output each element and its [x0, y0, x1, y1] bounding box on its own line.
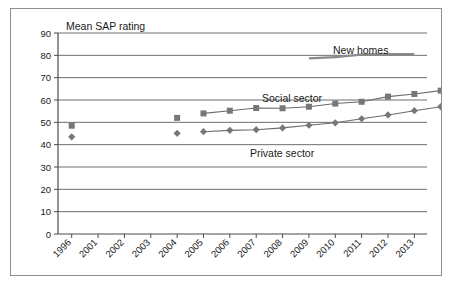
data-point-diamond — [226, 127, 233, 134]
data-point-diamond — [411, 107, 418, 114]
data-point-diamond — [279, 124, 286, 131]
chart-title: Mean SAP rating — [66, 20, 145, 32]
data-point-square — [253, 105, 259, 111]
y-tick-label: 40 — [40, 139, 51, 150]
data-point-square — [280, 105, 286, 111]
data-point-diamond — [384, 111, 391, 118]
data-point-square — [411, 91, 417, 97]
data-point-diamond — [174, 130, 181, 137]
y-tick-label: 0 — [46, 229, 51, 240]
x-tick-label: 2006 — [209, 237, 232, 260]
sap-rating-line-chart: 0102030405060708090 19962001200220032004… — [11, 9, 441, 275]
y-tick-label: 80 — [40, 50, 51, 61]
y-tick-label: 10 — [40, 206, 51, 217]
x-tick-label: 2005 — [182, 237, 205, 260]
x-tick-label: 2004 — [156, 237, 179, 260]
data-point-square — [227, 108, 233, 114]
data-point-diamond — [358, 115, 365, 122]
x-tick-label: 2009 — [288, 237, 311, 260]
data-point-square — [69, 123, 75, 129]
y-tick-label: 60 — [40, 95, 51, 106]
x-tick-label: 2008 — [261, 237, 284, 260]
data-point-diamond — [200, 128, 207, 135]
data-point-diamond — [68, 133, 75, 140]
x-axis-ticks: 1996200120022003200420052006200720082009… — [50, 234, 415, 259]
x-tick-label: 2010 — [314, 237, 337, 260]
annotation-private-sector: Private sector — [250, 147, 315, 159]
x-tick-label: 2002 — [103, 237, 126, 260]
y-tick-label: 70 — [40, 72, 51, 83]
data-point-square — [359, 99, 365, 105]
annotation-new-homes: New homes — [333, 44, 388, 56]
y-tick-label: 50 — [40, 117, 51, 128]
y-tick-label: 20 — [40, 184, 51, 195]
gridlines — [58, 33, 427, 212]
series-line — [203, 107, 440, 132]
y-tick-label: 90 — [40, 28, 51, 39]
data-point-diamond — [253, 126, 260, 133]
x-tick-label: 2001 — [77, 237, 100, 260]
data-point-square — [174, 115, 180, 121]
x-tick-label: 2013 — [393, 237, 416, 260]
data-point-square — [200, 110, 206, 116]
data-point-diamond — [332, 119, 339, 126]
data-point-square — [306, 104, 312, 110]
data-point-square — [438, 88, 441, 94]
x-tick-label: 2007 — [235, 237, 258, 260]
chart-container: 0102030405060708090 19962001200220032004… — [10, 8, 442, 276]
x-tick-label: 1996 — [50, 237, 73, 260]
x-tick-label: 2011 — [341, 237, 363, 259]
annotation-social-sector: Social sector — [262, 92, 323, 104]
x-tick-label: 2003 — [129, 237, 152, 260]
data-point-diamond — [437, 103, 441, 110]
x-tick-label: 2012 — [367, 237, 390, 260]
y-tick-label: 30 — [40, 162, 51, 173]
y-axis-ticks: 0102030405060708090 — [40, 28, 58, 240]
data-point-square — [332, 101, 338, 107]
data-point-square — [385, 94, 391, 100]
